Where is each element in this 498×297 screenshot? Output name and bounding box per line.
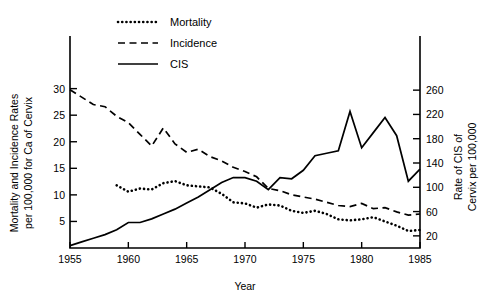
x-axis-tick-label: 1955 bbox=[58, 253, 82, 265]
right-y-axis-tick-label: 180 bbox=[426, 133, 444, 145]
x-axis-tick-label: 1975 bbox=[292, 253, 316, 265]
right-y-axis-tick-label: 260 bbox=[426, 84, 444, 96]
left-y-axis-tick-label: 25 bbox=[53, 109, 65, 121]
right-y-axis-tick-label: 20 bbox=[426, 230, 438, 242]
cervix-rates-line-chart: 1955196019651970197519801985510152025302… bbox=[0, 0, 498, 297]
left-y-axis-tick-label: 5 bbox=[59, 215, 65, 227]
right-y-axis-tick-label: 220 bbox=[426, 108, 444, 120]
x-axis-tick-label: 1980 bbox=[350, 253, 374, 265]
left-y-axis-tick-label: 15 bbox=[53, 162, 65, 174]
x-axis-tick-label: 1960 bbox=[117, 253, 141, 265]
left-y-axis-title-line1: Mortality and Incidence Rates bbox=[8, 94, 20, 232]
right-y-axis-tick-label: 140 bbox=[426, 157, 444, 169]
right-y-axis-tick-label: 100 bbox=[426, 181, 444, 193]
right-y-axis-title-line1: Rate of CIS of bbox=[452, 134, 464, 200]
left-y-axis-tick-label: 10 bbox=[53, 189, 65, 201]
x-axis-tick-label: 1985 bbox=[408, 253, 432, 265]
right-y-axis-tick-label: 60 bbox=[426, 206, 438, 218]
x-axis-title: Year bbox=[234, 280, 256, 292]
legend-label-cis: CIS bbox=[170, 58, 188, 70]
left-y-axis-tick-label: 20 bbox=[53, 136, 65, 148]
right-y-axis-title-line2: Cervix per 100,000 bbox=[466, 122, 478, 211]
legend-label-mortality: Mortality bbox=[170, 16, 212, 28]
x-axis-tick-label: 1965 bbox=[175, 253, 199, 265]
chart-figure: 1955196019651970197519801985510152025302… bbox=[0, 0, 498, 297]
left-y-axis-title-line2: per 100,000 for Ca of Cervix bbox=[22, 96, 34, 229]
legend-label-incidence: Incidence bbox=[170, 37, 217, 49]
left-y-axis-tick-label: 30 bbox=[53, 83, 65, 95]
x-axis-tick-label: 1970 bbox=[233, 253, 257, 265]
